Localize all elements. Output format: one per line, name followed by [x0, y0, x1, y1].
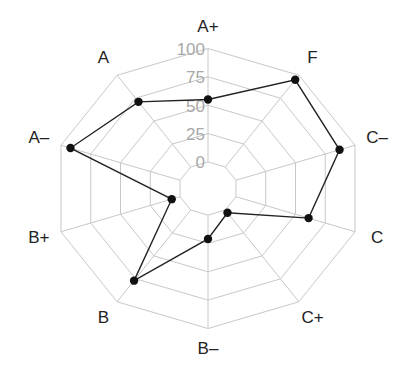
grid-ring-0 — [180, 162, 236, 215]
category-label: A — [98, 48, 110, 67]
category-label: A– — [29, 128, 50, 147]
radial-tick-label: 0 — [196, 153, 205, 172]
data-point-marker — [66, 144, 74, 152]
data-series — [66, 76, 343, 285]
radial-tick-label: 75 — [186, 68, 205, 87]
data-point-marker — [304, 214, 312, 222]
data-point-marker — [134, 98, 142, 106]
data-point-marker — [223, 209, 231, 217]
data-point-marker — [335, 146, 343, 154]
data-point-marker — [291, 76, 299, 84]
category-label: B+ — [28, 228, 49, 247]
category-label: C — [371, 228, 383, 247]
category-label: A+ — [197, 17, 218, 36]
series-line — [70, 80, 339, 281]
category-label: C– — [366, 128, 388, 147]
radial-tick-label: 25 — [186, 125, 205, 144]
data-point-marker — [168, 195, 176, 203]
data-point-marker — [204, 95, 212, 103]
radial-tick-label: 100 — [177, 40, 205, 59]
category-label: C+ — [301, 308, 323, 327]
category-label: B — [98, 308, 109, 327]
radial-tick-labels: 0255075100 — [177, 40, 205, 172]
data-point-marker — [130, 276, 138, 284]
category-label: B– — [198, 339, 219, 358]
data-point-marker — [204, 235, 212, 243]
radar-chart: 0255075100 A+FC–CC+B–BB+A–A — [0, 0, 411, 369]
radar-grid — [61, 49, 355, 329]
category-label: F — [307, 48, 317, 67]
